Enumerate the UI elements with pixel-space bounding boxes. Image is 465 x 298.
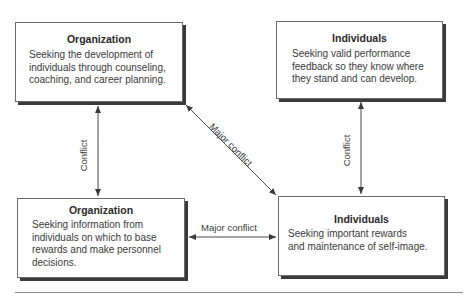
- right-conflict-label: Conflict: [341, 135, 352, 167]
- left-conflict-label: Conflict: [78, 140, 89, 172]
- horizontal-major-conflict-label: Major conflict: [201, 222, 257, 233]
- bottom-divider: [15, 292, 463, 293]
